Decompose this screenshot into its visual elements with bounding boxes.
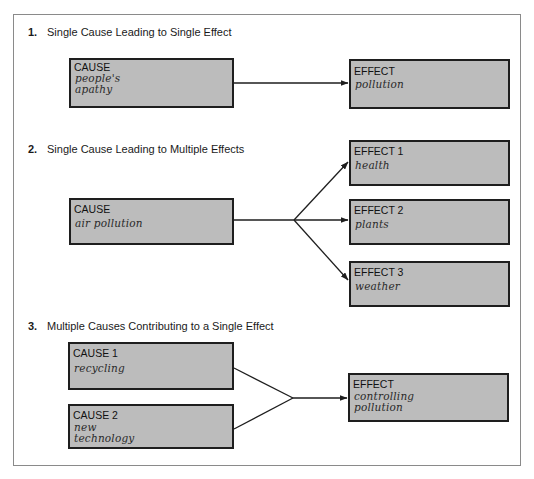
section-1-number: 1. xyxy=(28,26,37,38)
s3-cause-1-box: CAUSE 1 recycling xyxy=(68,342,234,390)
s2-cause-value: air pollution xyxy=(75,218,143,229)
s2-effect-3-box: EFFECT 3 weather xyxy=(349,261,510,307)
section-1-title: Single Cause Leading to Single Effect xyxy=(47,26,231,38)
s3-cause-1-value-line-1: recycling xyxy=(74,363,125,374)
s1-effect-box: EFFECT pollution xyxy=(349,59,510,109)
section-2-title: Single Cause Leading to Multiple Effects xyxy=(47,143,244,155)
s2-effect-2-label: EFFECT 2 xyxy=(354,204,403,216)
s1-effect-value-line-1: pollution xyxy=(355,79,404,90)
section-3-title: Multiple Causes Contributing to a Single… xyxy=(47,320,274,332)
s3-cause-2-value: new technology xyxy=(74,422,135,444)
s2-effect-3-value-line-1: weather xyxy=(355,281,400,292)
s3-cause-2-value-line-2: technology xyxy=(74,433,135,444)
s3-effect-box: EFFECT controlling pollution xyxy=(348,373,509,422)
s2-cause-value-line-1: air pollution xyxy=(75,218,143,229)
s2-effect-2-box: EFFECT 2 plants xyxy=(349,199,510,245)
s3-effect-value: controlling pollution xyxy=(354,391,414,413)
s3-cause-2-label: CAUSE 2 xyxy=(73,409,118,421)
s2-effect-1-label: EFFECT 1 xyxy=(354,145,403,157)
s2-effect-2-value-line-1: plants xyxy=(355,219,389,230)
s2-effect-1-box: EFFECT 1 health xyxy=(349,140,510,186)
s2-cause-label: CAUSE xyxy=(74,203,110,215)
s3-cause-2-box: CAUSE 2 new technology xyxy=(68,404,234,449)
s1-effect-label: EFFECT xyxy=(354,65,395,77)
s2-cause-box: CAUSE air pollution xyxy=(69,198,234,245)
s2-effect-3-value: weather xyxy=(355,281,400,292)
s1-effect-value: pollution xyxy=(355,79,404,90)
s3-effect-label: EFFECT xyxy=(353,378,394,390)
section-3-number: 3. xyxy=(28,320,37,332)
s2-effect-1-value-line-1: health xyxy=(355,160,390,171)
s2-effect-1-value: health xyxy=(355,160,390,171)
s1-cause-value-line-2: apathy xyxy=(75,84,120,95)
s2-effect-2-value: plants xyxy=(355,219,389,230)
s3-cause-1-value: recycling xyxy=(74,363,125,374)
section-2-number: 2. xyxy=(28,143,37,155)
s2-effect-3-label: EFFECT 3 xyxy=(354,266,403,278)
s3-cause-1-label: CAUSE 1 xyxy=(73,347,118,359)
s3-effect-value-line-2: pollution xyxy=(354,402,414,413)
s1-cause-value: people's apathy xyxy=(75,73,120,95)
s1-cause-box: CAUSE people's apathy xyxy=(69,58,234,108)
